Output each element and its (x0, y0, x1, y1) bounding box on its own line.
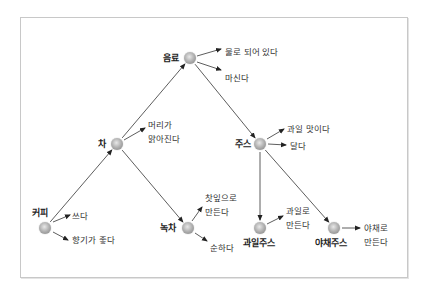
attribute-arrow (195, 233, 207, 241)
attribute-arrow (197, 49, 221, 56)
edge-tea-to-green_tea (122, 150, 183, 222)
attribute-text: 순하다 (210, 241, 234, 255)
node-tea (111, 138, 123, 150)
node-label: 주스 (235, 139, 251, 149)
attribute-text: 마신다 (225, 71, 249, 85)
attribute-text: 향기가 좋다 (72, 233, 115, 247)
attribute-arrow (267, 129, 284, 139)
node-juice (254, 138, 266, 150)
attribute-text: 과일 맛이다 (287, 122, 330, 136)
attribute-arrow (53, 232, 68, 240)
attribute-arrow (267, 216, 283, 224)
attribute-text: 물로 되어 있다 (225, 45, 278, 59)
attribute-text: 달다 (290, 139, 306, 153)
attribute-arrow (192, 207, 202, 221)
node-beverage (184, 52, 196, 64)
node-label: 과일주스 (243, 238, 275, 248)
node-fruit_juice (254, 222, 266, 234)
node-label: 커피 (32, 208, 48, 218)
attribute-text: 찻잎으로 만든다 (205, 191, 237, 219)
attribute-text: 과일로 만든다 (286, 204, 310, 232)
node-label: 야채주스 (315, 238, 347, 248)
node-green_tea (182, 222, 194, 234)
node-label: 차 (98, 139, 106, 149)
attribute-text: 쓰다 (72, 209, 88, 223)
attribute-arrow (124, 128, 145, 140)
node-label: 음료 (163, 53, 179, 63)
node-coffee (39, 222, 51, 234)
attribute-text: 야채로 만든다 (364, 221, 388, 249)
attribute-text: 머리가 맑아진다 (148, 118, 180, 146)
node-label: 녹차 (160, 223, 176, 233)
node-veg_juice (328, 222, 340, 234)
attribute-arrow (197, 62, 221, 70)
attribute-arrow (268, 144, 286, 145)
